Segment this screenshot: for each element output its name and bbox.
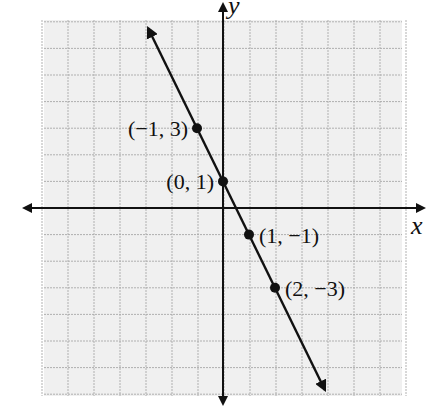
point-label: (−1, 3): [128, 116, 188, 141]
coordinate-plane-chart: x y (−1, 3)(0, 1)(1, −1)(2, −3): [0, 0, 437, 409]
point-label: (2, −3): [285, 276, 345, 301]
y-axis-label: y: [225, 0, 240, 20]
point-label: (1, −1): [259, 223, 319, 248]
data-point: [270, 283, 280, 293]
x-axis-label: x: [410, 211, 423, 240]
data-point: [192, 123, 202, 133]
point-label: (0, 1): [166, 169, 214, 194]
data-point: [244, 230, 254, 240]
data-point: [218, 176, 228, 186]
